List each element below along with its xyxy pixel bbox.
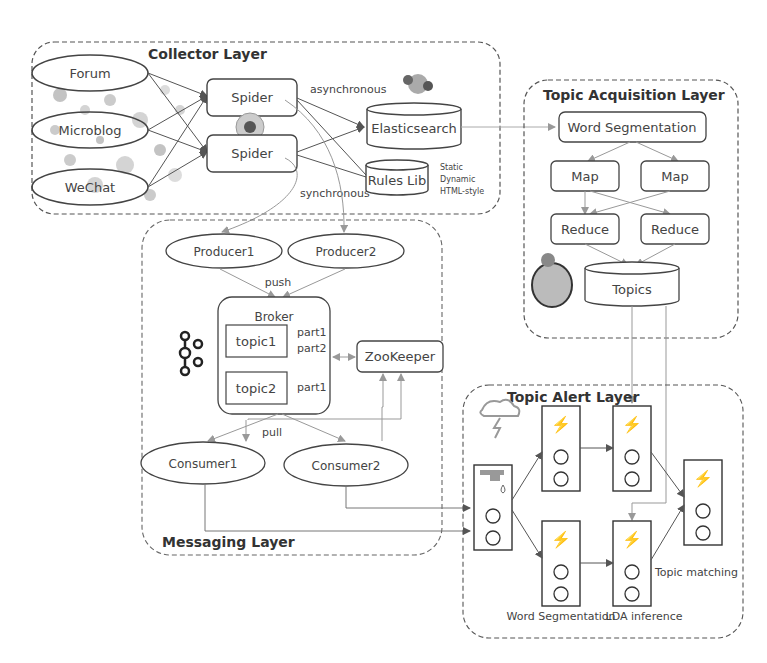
bolt-box-bottom-2: ⚡ xyxy=(613,521,651,606)
reduce-2-label: Reduce xyxy=(651,222,699,237)
collector-layer: Collector Layer Forum Microblog WeChat S… xyxy=(32,42,500,214)
word-segmentation-label: Word Segmentation xyxy=(568,120,697,135)
storm-cloud-icon xyxy=(480,400,519,438)
topics-label: Topics xyxy=(611,282,652,297)
lda-inference-caption: LDA inference xyxy=(606,610,683,623)
spider-1-label: Spider xyxy=(231,90,273,105)
rules-lib-label: Rules Lib xyxy=(368,173,426,188)
topic1-label: topic1 xyxy=(236,334,276,349)
asynchronous-label: asynchronous xyxy=(310,83,387,96)
topic2-label: topic2 xyxy=(236,381,276,396)
topic1-part2-label: part2 xyxy=(297,342,327,355)
bolt-box-matching: ⚡ xyxy=(684,460,722,545)
topic-acquisition-layer-title: Topic Acquisition Layer xyxy=(543,87,725,103)
broker-label: Broker xyxy=(254,310,293,324)
elasticsearch-logo-icon xyxy=(403,74,433,94)
rules-note-html-style: HTML-style xyxy=(440,187,484,196)
consumer-2-label: Consumer2 xyxy=(312,459,381,473)
source-forum-label: Forum xyxy=(69,66,110,81)
collector-layer-title: Collector Layer xyxy=(148,46,267,62)
hadoop-elephant-icon xyxy=(532,253,572,307)
word-segmentation-caption: Word Segmentation xyxy=(506,610,615,623)
bolt-icon: ⚡ xyxy=(622,530,642,549)
synchronous-label: synchronous xyxy=(300,187,370,200)
source-wechat-label: WeChat xyxy=(65,180,115,195)
spider-2-label: Spider xyxy=(231,146,273,161)
bolt-box-top-1: ⚡ xyxy=(542,406,580,491)
producer-1-label: Producer1 xyxy=(194,245,255,259)
push-label: push xyxy=(265,276,292,289)
topic2-part1-label: part1 xyxy=(297,381,327,394)
bolt-icon: ⚡ xyxy=(693,469,713,488)
zookeeper-label: ZooKeeper xyxy=(365,349,436,364)
topic-matching-caption: Topic matching xyxy=(654,566,738,579)
bolt-box-bottom-1: ⚡ xyxy=(542,521,580,606)
messaging-layer: Messaging Layer Producer1 Producer2 push… xyxy=(141,220,470,555)
kafka-logo-icon xyxy=(180,332,202,375)
bolt-icon: ⚡ xyxy=(551,415,571,434)
elasticsearch-label: Elasticsearch xyxy=(371,121,457,136)
bolt-icon: ⚡ xyxy=(551,530,571,549)
topic-alert-layer-title: Topic Alert Layer xyxy=(507,389,639,405)
bolt-box-top-2: ⚡ xyxy=(613,406,651,491)
messaging-layer-title: Messaging Layer xyxy=(162,534,295,550)
bolt-icon: ⚡ xyxy=(622,415,642,434)
reduce-1-label: Reduce xyxy=(561,222,609,237)
consumer-1-label: Consumer1 xyxy=(169,457,238,471)
topic-acquisition-layer: Topic Acquisition Layer Word Segmentatio… xyxy=(524,80,738,338)
map-1-label: Map xyxy=(571,169,598,184)
pull-label: pull xyxy=(262,426,282,439)
rules-note-dynamic: Dynamic xyxy=(440,175,475,184)
topic-alert-layer: Topic Alert Layer ⚡ ⚡ ⚡ xyxy=(463,385,743,638)
rules-note-static: Static xyxy=(440,163,463,172)
producer-2-label: Producer2 xyxy=(316,245,377,259)
map-2-label: Map xyxy=(661,169,688,184)
source-microblog-label: Microblog xyxy=(58,123,121,138)
topic1-part1-label: part1 xyxy=(297,326,327,339)
